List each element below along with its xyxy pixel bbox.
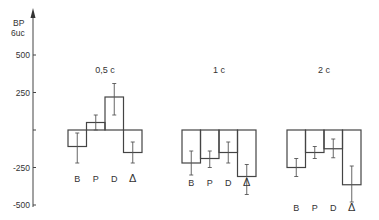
category-label: Δ — [243, 176, 251, 188]
axis-arrow-icon — [31, 8, 36, 18]
grouped-bar-chart: 500250-250-500 BP6uc 0,5 cBPDΔ1 cBPDΔ2 c… — [0, 0, 379, 220]
category-label: D — [225, 178, 232, 188]
y-label-line: BP — [13, 18, 25, 28]
bar-group: 1 cBPDΔ — [182, 65, 256, 195]
y-axis-label: BP6uc — [11, 18, 25, 38]
y-tick-label: 500 — [16, 50, 30, 60]
y-tick-label: 250 — [16, 88, 30, 98]
category-label: Δ — [129, 172, 137, 184]
bar-group: 0,5 cBPDΔ — [68, 65, 142, 184]
y-tick-label: -500 — [13, 200, 30, 210]
y-label-line: 6uc — [11, 28, 25, 38]
category-label: D — [111, 174, 118, 184]
bar-groups: 0,5 cBPDΔ1 cBPDΔ2 cBPDΔ — [68, 65, 361, 213]
y-axis: 500250-250-500 — [13, 8, 36, 210]
category-label: D — [330, 203, 337, 213]
bar-group: 2 cBPDΔ — [287, 65, 361, 213]
category-label: P — [93, 174, 99, 184]
category-label: P — [207, 178, 213, 188]
category-label: B — [188, 178, 194, 188]
group-label: 2 c — [318, 65, 331, 75]
category-label: P — [312, 203, 318, 213]
category-label: B — [74, 174, 80, 184]
group-label: 1 c — [213, 65, 226, 75]
category-label: B — [293, 203, 299, 213]
group-label: 0,5 c — [95, 65, 115, 75]
category-label: Δ — [348, 201, 356, 213]
y-tick-label: -250 — [13, 163, 30, 173]
